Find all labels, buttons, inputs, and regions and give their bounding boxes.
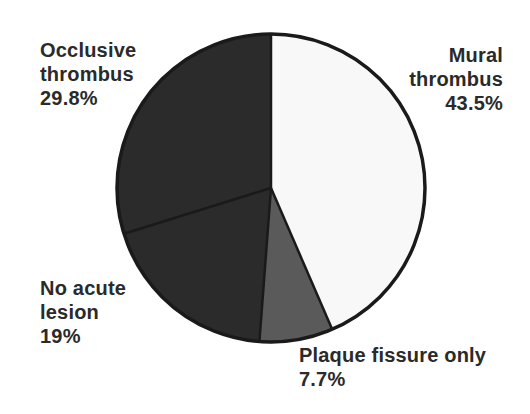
label-occlusive-percent: 29.8% bbox=[40, 86, 136, 110]
label-plaque-line1: Plaque fissure only bbox=[299, 343, 486, 367]
label-plaque-percent: 7.7% bbox=[299, 367, 486, 391]
label-noacute-percent: 19% bbox=[40, 324, 126, 348]
label-occlusive-thrombus: Occlusive thrombus 29.8% bbox=[40, 38, 136, 110]
label-noacute-line1: No acute bbox=[40, 276, 126, 300]
label-plaque-fissure-only: Plaque fissure only 7.7% bbox=[299, 343, 486, 391]
label-no-acute-lesion: No acute lesion 19% bbox=[40, 276, 126, 348]
label-mural-line1: Mural bbox=[409, 43, 503, 67]
label-noacute-line2: lesion bbox=[40, 300, 126, 324]
label-mural-thrombus: Mural thrombus 43.5% bbox=[409, 43, 503, 115]
label-mural-percent: 43.5% bbox=[409, 91, 503, 115]
label-occlusive-line2: thrombus bbox=[40, 62, 136, 86]
label-occlusive-line1: Occlusive bbox=[40, 38, 136, 62]
label-mural-line2: thrombus bbox=[409, 67, 503, 91]
